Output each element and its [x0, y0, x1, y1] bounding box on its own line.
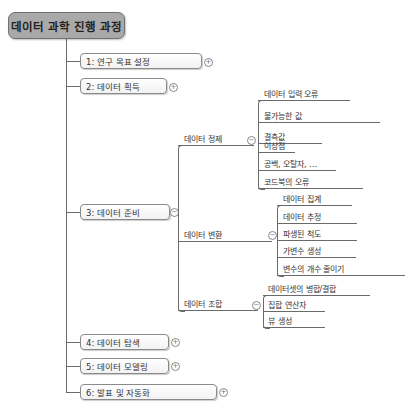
leaf-item[interactable]: 공백, 오탈자, … — [264, 158, 317, 169]
root-topic[interactable]: 데이터 과학 진행 과정 — [8, 12, 125, 39]
topic-research-goal[interactable]: 1: 연구 목표 설정 — [80, 53, 202, 69]
connector — [66, 212, 80, 213]
expand-icon[interactable]: + — [171, 338, 180, 347]
topic-data-preparation[interactable]: 3: 데이터 준비 — [80, 204, 170, 220]
topic-label: 3: 데이터 준비 — [86, 206, 140, 218]
group-data-transformation[interactable]: 데이터 변환 — [184, 229, 222, 240]
expand-icon[interactable]: + — [204, 58, 213, 67]
collapse-icon[interactable]: − — [268, 231, 277, 240]
leaf-underline — [258, 100, 350, 101]
leaf-underline — [258, 122, 380, 123]
leaf-item[interactable]: 데이터 입력 오류 — [264, 88, 318, 99]
connector — [66, 61, 80, 62]
group-underline — [178, 145, 254, 146]
leaf-underline — [263, 311, 325, 312]
leaf-item[interactable]: 데이터셋의 병합/결합 — [268, 283, 336, 294]
leaf-item[interactable]: 변수의 개수 줄이기 — [283, 263, 344, 274]
connector — [66, 366, 80, 367]
collapse-icon[interactable]: − — [252, 301, 261, 310]
group-data-cleansing[interactable]: 데이터 정제 — [184, 133, 222, 144]
group-data-combination[interactable]: 데이터 조합 — [184, 298, 222, 309]
trunk-line — [66, 38, 67, 393]
topic-label: 4: 데이터 탐색 — [86, 336, 140, 348]
leaf-item[interactable]: 가변수 생성 — [283, 245, 321, 256]
expand-icon[interactable]: + — [169, 83, 178, 92]
topic-data-acquisition[interactable]: 2: 데이터 획득 — [80, 78, 167, 94]
leaf-item[interactable]: 불가능한 값 — [264, 110, 302, 121]
collapse-icon[interactable]: − — [247, 136, 256, 145]
topic-presentation-automation[interactable]: 6: 발표 및 자동화 — [80, 384, 217, 400]
connector — [66, 392, 80, 393]
connector — [66, 342, 80, 343]
leaf-underline — [277, 275, 405, 276]
topic-label: 6: 발표 및 자동화 — [86, 386, 150, 398]
leaf-underline — [263, 327, 325, 328]
leaf-item[interactable]: 데이터 추정 — [283, 211, 321, 222]
leaf-underline — [277, 205, 352, 206]
group-underline — [178, 241, 272, 242]
expand-icon[interactable]: + — [171, 362, 180, 371]
leaf-item[interactable]: 뷰 생성 — [268, 315, 292, 326]
topic-label: 1: 연구 목표 설정 — [86, 55, 150, 67]
leaf-underline — [258, 188, 363, 189]
connector — [66, 86, 80, 87]
leaf-underline — [263, 295, 370, 296]
leaf-item[interactable]: 파생된 척도 — [283, 228, 321, 239]
expand-icon[interactable]: + — [219, 388, 228, 397]
leaf-item[interactable]: 이상점 — [264, 140, 285, 151]
topic-data-modeling[interactable]: 5: 데이터 모델링 — [80, 358, 169, 374]
root-topic-label: 데이터 과학 진행 과정 — [11, 18, 122, 34]
leaf-underline — [277, 257, 356, 258]
leaf-item[interactable]: 데이터 집계 — [283, 193, 321, 204]
topic-label: 2: 데이터 획득 — [86, 80, 140, 92]
topic-label: 5: 데이터 모델링 — [86, 360, 148, 372]
leaf-underline — [277, 223, 357, 224]
leaf-underline — [277, 240, 357, 241]
topic-data-exploration[interactable]: 4: 데이터 탐색 — [80, 334, 169, 350]
leaf-underline — [258, 152, 295, 153]
leaf-item[interactable]: 코드북의 오류 — [264, 176, 309, 187]
leaf-item[interactable]: 집합 연산자 — [268, 299, 306, 310]
leaf-underline — [258, 170, 336, 171]
group-underline — [178, 310, 258, 311]
